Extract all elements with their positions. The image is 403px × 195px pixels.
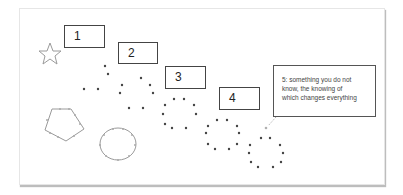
step-box-3: 3	[165, 66, 206, 89]
callout-line-3: which changes everything	[282, 93, 369, 102]
star-icon	[39, 43, 61, 64]
step-box-4: 4	[219, 87, 260, 110]
pentagon-shape	[45, 108, 84, 141]
dots-cluster-5	[248, 137, 284, 168]
dots-cluster-4	[205, 119, 240, 150]
step-box-1: 1	[64, 25, 105, 48]
callout-line-1: 5: something you do not	[282, 75, 369, 84]
dots-cluster-3	[162, 98, 197, 129]
circle-shape	[99, 128, 136, 161]
dots-cluster-2	[83, 65, 154, 109]
callout-line-2: know, the knowing of	[282, 84, 369, 93]
step-box-2: 2	[118, 42, 158, 64]
callout-arrow-icon	[265, 117, 276, 129]
step-box-5-callout: 5: something you do not know, the knowin…	[273, 65, 376, 117]
